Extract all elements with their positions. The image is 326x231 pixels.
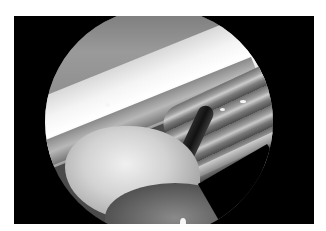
endoscope-viewport xyxy=(45,16,273,224)
specular-highlight xyxy=(240,100,246,103)
specular-highlight xyxy=(220,108,225,111)
specular-highlight xyxy=(180,218,186,224)
specular-highlight xyxy=(105,103,110,107)
image-frame xyxy=(14,16,314,224)
